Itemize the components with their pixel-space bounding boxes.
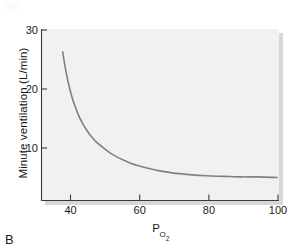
plot-background-sheen [41,29,279,201]
x-tick-label-100: 100 [263,204,293,216]
panel-label: B [5,232,14,247]
x-axis-title-sub-two: 2 [166,235,170,242]
x-tick-label-80: 80 [194,204,224,216]
x-tick-label-60: 60 [125,204,155,216]
x-axis-title-sub-o: O [159,230,165,239]
x-tick-label-40: 40 [56,204,86,216]
y-axis-title: Minute ventilation (L/min) [17,18,29,208]
x-axis-title: PO2 [41,222,281,239]
x-axis-title-subscript: O2 [159,230,169,239]
figure-panel-b: 30 20 10 40 60 80 100 Minute ventilation… [0,0,300,252]
